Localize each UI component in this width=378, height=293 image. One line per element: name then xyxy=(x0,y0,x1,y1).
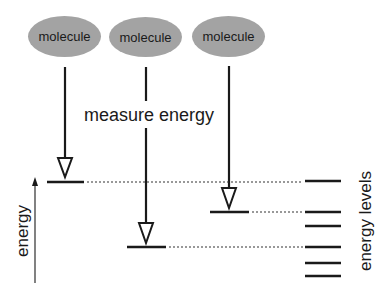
energy-axis xyxy=(32,177,38,283)
molecule-label: molecule xyxy=(119,30,171,45)
molecule-label: molecule xyxy=(202,29,254,44)
energy-levels-label: energy levels xyxy=(356,171,375,271)
energy-axis-label: energy xyxy=(13,205,32,257)
molecule-3: molecule xyxy=(192,16,265,57)
molecule-label: molecule xyxy=(38,29,90,44)
energy-levels-ladder xyxy=(305,181,341,276)
molecule-2: molecule xyxy=(109,17,182,57)
arrow-up-icon xyxy=(32,177,38,186)
measurement-arrow-1 xyxy=(58,67,72,177)
diagram-canvas: molecule molecule molecule measure energ… xyxy=(0,0,378,293)
molecule-1: molecule xyxy=(28,16,101,57)
measurement-arrow-3 xyxy=(222,66,236,208)
measure-energy-label: measure energy xyxy=(84,105,214,125)
measurement-arrow-2 xyxy=(139,67,153,243)
